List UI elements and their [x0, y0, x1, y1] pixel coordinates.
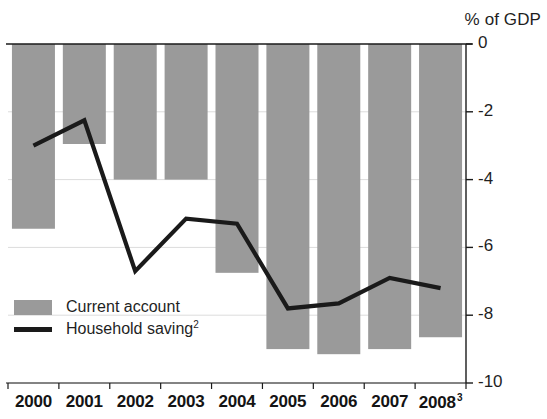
legend-label-household-saving-sup: 2: [193, 319, 199, 330]
x-axis-tick-label-text: 2001: [66, 392, 103, 411]
x-axis-tick-label-2001: 2001: [59, 392, 110, 412]
y-axis-tick-label: -4: [478, 169, 493, 189]
bar-current-account: [266, 44, 309, 349]
bar-current-account: [368, 44, 411, 349]
legend-line-swatch-icon: [14, 327, 52, 332]
x-axis-tick-label-text: 2002: [117, 392, 154, 411]
legend-bar-swatch-icon: [14, 300, 52, 315]
x-axis-tick-label-2002: 2002: [110, 392, 161, 412]
bar-current-account: [317, 44, 360, 354]
x-axis-tick-label-text: 2004: [218, 392, 255, 411]
x-axis-tick-label-superscript: 3: [457, 392, 462, 403]
x-axis-tick-label-2000: 2000: [8, 392, 59, 412]
bar-current-account: [114, 44, 157, 180]
legend-label-household-saving-text: Household saving: [66, 321, 193, 338]
x-axis-tick-label-2007: 2007: [364, 392, 415, 412]
x-axis-tick-label-2008: 20083: [415, 392, 466, 413]
chart-container: % of GDP 0-2-4-6-8-10 200020012002200320…: [0, 0, 547, 419]
legend-label-current-account: Current account: [66, 298, 180, 316]
y-axis-tick-label: -8: [478, 304, 493, 324]
x-axis-tick-label-text: 2000: [15, 392, 52, 411]
x-axis-tick-label-text: 2003: [168, 392, 205, 411]
legend-label-household-saving: Household saving2: [66, 319, 199, 338]
y-axis-tick-label: -2: [478, 101, 493, 121]
legend-item-household-saving: Household saving2: [14, 319, 199, 339]
x-axis-tick-label-2003: 2003: [161, 392, 212, 412]
y-axis-tick-label: -10: [478, 372, 503, 392]
x-axis-tick-label-2004: 2004: [212, 392, 263, 412]
bar-current-account: [165, 44, 208, 180]
chart-legend: Current account Household saving2: [14, 297, 199, 341]
y-axis-tick-label: -6: [478, 236, 493, 256]
x-axis-tick-label-text: 2005: [269, 392, 306, 411]
y-axis-tick-label: 0: [478, 33, 487, 53]
x-axis-tick-label-text: 2008: [419, 393, 456, 412]
legend-item-current-account: Current account: [14, 297, 199, 317]
bar-current-account: [419, 44, 462, 337]
x-axis-tick-label-2006: 2006: [313, 392, 364, 412]
x-axis-tick-label-text: 2006: [320, 392, 357, 411]
x-axis-tick-label-text: 2007: [371, 392, 408, 411]
y-axis-title: % of GDP: [465, 10, 541, 30]
x-axis-tick-label-2005: 2005: [262, 392, 313, 412]
plot-area: [0, 0, 547, 419]
bar-current-account: [216, 44, 259, 273]
